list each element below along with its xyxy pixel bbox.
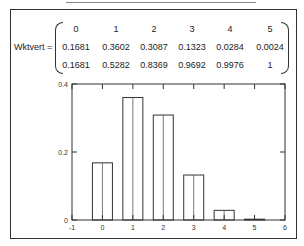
x-tick-label: -1 [69,224,75,231]
plot-area [72,84,285,220]
y-tick-label: 0.2 [58,149,68,156]
x-tick-label: 0 [100,224,104,231]
x-tick-label: 6 [283,224,287,231]
bar-chart: -1012345600.20.4 [0,0,304,246]
x-tick-label: 3 [192,224,196,231]
y-tick-label: 0 [64,217,68,224]
y-tick-label: 0.4 [58,81,68,88]
x-tick-label: 1 [131,224,135,231]
x-tick-label: 4 [222,224,226,231]
x-tick-label: 2 [161,224,165,231]
x-tick-label: 5 [253,224,257,231]
